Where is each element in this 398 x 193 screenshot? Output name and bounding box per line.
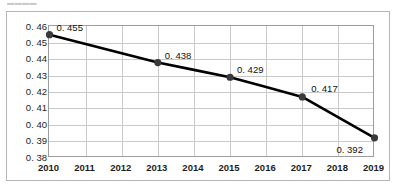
data-point-label: 0. 417 [311,84,337,94]
x-tick-label: 2011 [74,162,95,174]
x-tick-label: 2016 [255,162,276,174]
y-tick-label: 0. 46 [7,21,47,30]
y-tick-label: 0. 38 [7,152,47,161]
y-axis-labels: 0. 460. 450. 440. 430. 420. 410. 400. 39… [7,12,47,144]
x-tick-label: 2013 [146,162,167,174]
x-axis-labels: 2010201120122013201420152016201720182019 [48,162,374,176]
chart-frame: 0. 460. 450. 440. 430. 420. 410. 400. 39… [6,11,390,181]
x-tick-label: 2010 [38,162,59,174]
data-point-marker[interactable] [226,74,233,81]
x-tick-label: 2015 [218,162,239,174]
x-tick-label: 2017 [291,162,312,174]
x-tick-label: 2018 [327,162,348,174]
data-point-marker[interactable] [46,31,53,38]
data-point-marker[interactable] [371,134,378,141]
x-tick-label: 2012 [110,162,131,174]
data-point-label: 0. 438 [165,51,191,61]
y-tick-label: 0. 45 [7,37,47,46]
top-cut-text: ▬▬▬▬ [7,0,53,5]
y-tick-label: 0. 41 [7,103,47,112]
chart-inner: 0. 460. 450. 440. 430. 420. 410. 400. 39… [7,12,389,180]
data-point-label: 0. 392 [337,145,363,155]
data-point-label: 0. 455 [57,23,83,33]
y-tick-label: 0. 43 [7,70,47,79]
y-tick-label: 0. 40 [7,119,47,128]
y-tick-label: 0. 39 [7,136,47,145]
data-point-marker[interactable] [299,93,306,100]
data-point-marker[interactable] [154,59,161,66]
data-point-label: 0. 429 [237,65,263,75]
x-tick-label: 2019 [363,162,384,174]
y-tick-label: 0. 44 [7,54,47,63]
x-tick-label: 2014 [182,162,203,174]
y-tick-label: 0. 42 [7,87,47,96]
plot-area: 0. 4550. 4380. 4290. 4170. 392 [48,25,374,157]
